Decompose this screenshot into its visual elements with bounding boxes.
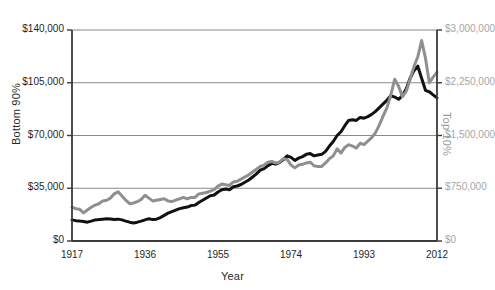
gridlines — [72, 30, 437, 241]
x-tick-label: 1955 — [193, 249, 243, 260]
x-tick-label: 1993 — [339, 249, 389, 260]
left-tick-label: $70,000 — [28, 129, 64, 140]
x-tick-label: 2012 — [412, 249, 462, 260]
left-tick-label: $140,000 — [22, 23, 64, 34]
left-tick-label: $35,000 — [28, 181, 64, 192]
x-tick-label: 1974 — [266, 249, 316, 260]
right-axis-title: Top 10% — [441, 99, 453, 169]
x-tick-label: 1936 — [120, 249, 170, 260]
right-tick-label: $0 — [445, 234, 456, 245]
right-tick-label: $750,000 — [445, 181, 487, 192]
left-tick-label: $105,000 — [22, 76, 64, 87]
right-tick-label: $2,250,000 — [445, 76, 495, 87]
left-tick-label: $0 — [53, 234, 64, 245]
series-lines — [72, 41, 437, 223]
x-tick-label: 1917 — [47, 249, 97, 260]
right-tick-label: $3,000,000 — [445, 23, 495, 34]
series-line-top-10- — [72, 41, 437, 213]
x-axis-title: Year — [0, 270, 465, 282]
left-axis-title: Bottom 90% — [10, 74, 22, 154]
